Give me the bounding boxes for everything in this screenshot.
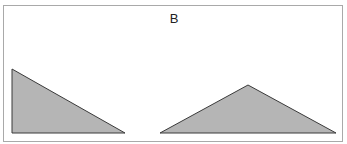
figure-canvas — [0, 0, 347, 144]
obtuse-triangle-shape — [160, 85, 336, 133]
right-triangle-shape — [12, 69, 125, 133]
